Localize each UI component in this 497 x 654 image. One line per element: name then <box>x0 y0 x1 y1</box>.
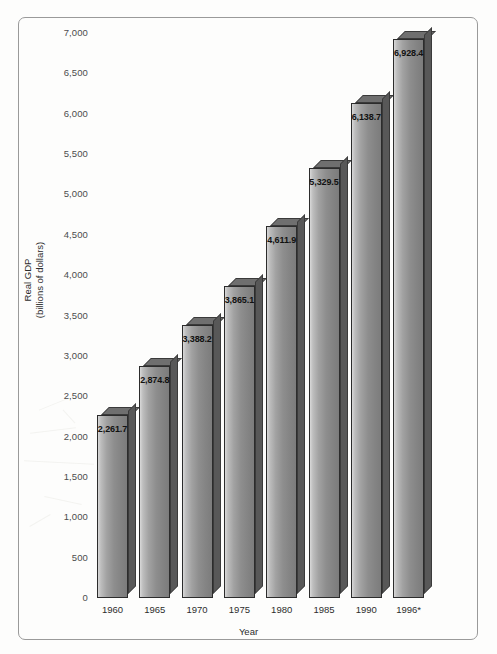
bar-front-face[interactable] <box>224 286 255 598</box>
x-axis-tick-label: 1996* <box>387 604 430 615</box>
bar-front-face[interactable] <box>97 415 128 598</box>
bar-value-label: 3,388.2 <box>182 334 213 344</box>
bar-front-face[interactable] <box>351 103 382 598</box>
bar-group: 5,329.5 <box>309 160 348 598</box>
gdp-bar-chart-figure: 7,0006,5006,0005,5005,0004,5004,0003,500… <box>0 0 497 654</box>
bar-side-face <box>382 91 390 594</box>
x-axis-tick-label: 1970 <box>176 604 219 615</box>
bar-front-face[interactable] <box>393 39 424 598</box>
bar-value-label: 2,874.8 <box>139 375 170 385</box>
bar-value-label: 6,138.7 <box>351 112 382 122</box>
bar-side-face <box>340 156 348 594</box>
bar-group: 4,611.9 <box>266 218 305 598</box>
plot-area: 7,0006,5006,0005,5005,0004,5004,0003,500… <box>0 0 497 654</box>
bar-side-face <box>424 27 432 594</box>
bar-value-label: 4,611.9 <box>266 235 297 245</box>
bar-value-label: 3,865.1 <box>224 295 255 305</box>
x-axis-title: Year <box>0 626 497 637</box>
bar-group: 2,874.8 <box>139 358 178 598</box>
bar-group: 2,261.7 <box>97 407 136 598</box>
x-axis-tick-label: 1960 <box>91 604 134 615</box>
bar-value-label: 6,928.4 <box>393 48 424 58</box>
bar-group: 6,928.4 <box>393 31 432 598</box>
x-axis-tick-label: 1980 <box>260 604 303 615</box>
bar-value-label: 2,261.7 <box>97 424 128 434</box>
bar-front-face[interactable] <box>139 366 170 598</box>
bar-group: 6,138.7 <box>351 95 390 598</box>
bar-side-face <box>170 354 178 594</box>
bar-group: 3,865.1 <box>224 278 263 598</box>
x-axis-tick-label: 1990 <box>345 604 388 615</box>
bar-value-label: 5,329.5 <box>309 177 340 187</box>
bars-layer: 2,261.719602,874.819653,388.219703,865.1… <box>0 0 497 654</box>
bar-group: 3,388.2 <box>182 317 221 598</box>
x-axis-tick-label: 1975 <box>218 604 261 615</box>
bar-side-face <box>255 274 263 594</box>
x-axis-tick-label: 1985 <box>303 604 346 615</box>
bar-side-face <box>297 214 305 594</box>
bar-front-face[interactable] <box>309 168 340 598</box>
x-axis-tick-label: 1965 <box>133 604 176 615</box>
bar-front-face[interactable] <box>182 325 213 598</box>
bar-side-face <box>128 403 136 594</box>
bar-side-face <box>213 313 221 594</box>
bar-front-face[interactable] <box>266 226 297 598</box>
